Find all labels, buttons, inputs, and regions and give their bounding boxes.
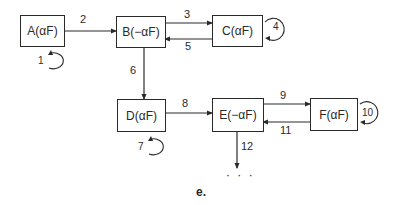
edge-10-label: 10 bbox=[362, 108, 373, 118]
node-b: B(−αF) bbox=[116, 16, 166, 48]
node-f: F(αF) bbox=[310, 98, 358, 131]
node-e: E(−αF) bbox=[212, 98, 264, 132]
edge-1-label: 1 bbox=[38, 56, 44, 66]
node-b-label: B(−αF) bbox=[122, 25, 159, 39]
node-c-label: C(αF) bbox=[222, 24, 253, 38]
edge-3-label: 3 bbox=[184, 9, 190, 20]
node-d: D(αF) bbox=[117, 99, 166, 132]
edge-2-label: 2 bbox=[80, 14, 86, 25]
node-c: C(αF) bbox=[212, 15, 263, 47]
edge-11-label: 11 bbox=[280, 125, 291, 136]
self-loop-1-arrow bbox=[49, 53, 63, 69]
edge-7-label: 7 bbox=[138, 142, 144, 152]
edge-6-label: 6 bbox=[130, 65, 136, 76]
state-transition-diagram: A(αF) B(−αF) C(αF) D(αF) E(−αF) F(αF) 1 … bbox=[0, 0, 395, 205]
self-loop-7-arrow bbox=[149, 139, 163, 155]
node-f-label: F(αF) bbox=[319, 108, 349, 122]
node-a: A(αF) bbox=[20, 15, 65, 47]
figure-caption: e. bbox=[196, 185, 206, 199]
edge-9-label: 9 bbox=[280, 90, 286, 101]
edge-5-label: 5 bbox=[185, 41, 191, 52]
edge-8-label: 8 bbox=[182, 98, 188, 109]
node-a-label: A(αF) bbox=[27, 24, 57, 38]
edge-12-label: 12 bbox=[241, 141, 253, 152]
continuation-ellipsis: · · · bbox=[226, 168, 255, 182]
edge-4-label: 4 bbox=[273, 22, 279, 32]
node-e-label: E(−αF) bbox=[219, 108, 256, 122]
node-d-label: D(αF) bbox=[126, 109, 157, 123]
